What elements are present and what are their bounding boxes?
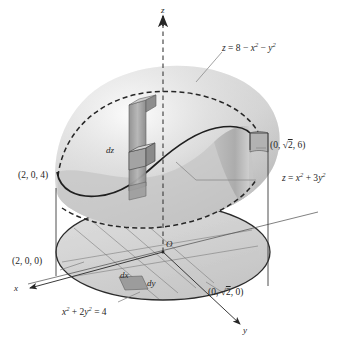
top-eq-equals: = — [228, 43, 233, 53]
bottom-eq-z: z — [282, 173, 286, 183]
point-0-r2-0-label: (0, √2, 0) — [208, 288, 243, 298]
right-cut-face — [250, 132, 268, 153]
solid-body — [55, 66, 280, 232]
top-surface-equation: z = 8 − x2 − y2 — [222, 42, 276, 54]
base-curve-equation: x2 + 2y2 = 4 — [62, 306, 107, 318]
z-axis-label: z — [161, 6, 165, 15]
origin-dot — [162, 251, 165, 254]
bottom-eq-body: x2 + 3y2 — [296, 173, 326, 183]
origin-label: O — [166, 240, 173, 249]
x-axis-label: x — [14, 284, 18, 293]
top-eq-body: 8 − x2 − y2 — [236, 43, 276, 53]
dy-label: dy — [147, 279, 156, 288]
y-axis-label: y — [243, 326, 247, 335]
dz-label: dz — [106, 146, 114, 155]
point-0-r2-6-label: (0, √2, 6) — [270, 141, 305, 151]
point-2-0-4-label: (2, 0, 4) — [18, 171, 48, 181]
bottom-eq-equals: = — [288, 173, 293, 183]
figure-canvas: z x y O z = 8 − x2 − y2 z = x2 + 3y2 x2 … — [0, 0, 362, 348]
top-eq-z: z — [222, 43, 226, 53]
dx-label: dx — [120, 271, 129, 280]
bottom-surface-equation: z = x2 + 3y2 — [282, 172, 326, 184]
point-2-0-0-label: (2, 0, 0) — [12, 257, 42, 267]
